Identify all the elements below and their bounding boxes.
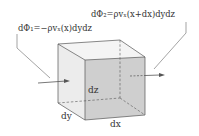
dy-label: dy: [61, 112, 72, 121]
flux-out-label: dΦ₂=ρvₓ(x+dx)dydz: [91, 10, 175, 18]
flux-in-label: dΦ₁=−ρvₓ(x)dydz: [18, 24, 92, 32]
dz-label: dz: [88, 86, 99, 95]
dx-label: dx: [110, 120, 121, 129]
inflow-arrow-icon: [38, 79, 70, 83]
cube-drawing: [0, 0, 199, 136]
flux-in-leader: [17, 34, 50, 78]
volume-element-diagram: dΦ₂=ρvₓ(x+dx)dydz dΦ₁=−ρvₓ(x)dydz dz dy …: [0, 0, 199, 136]
flux-out-leader: [154, 22, 186, 69]
